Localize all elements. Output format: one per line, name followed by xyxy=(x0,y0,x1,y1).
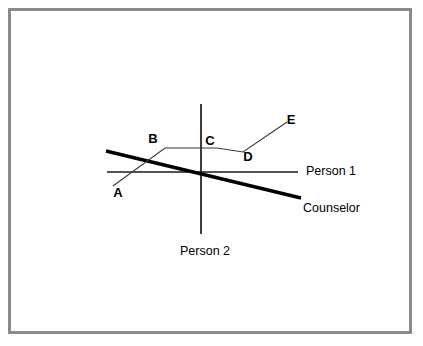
axis-label-person-2: Person 2 xyxy=(180,244,230,258)
point-label-a: A xyxy=(113,185,123,200)
axis-label-person-1: Person 1 xyxy=(306,164,356,178)
relationship-diagram: A B C D E Person 1 Counselor Person 2 xyxy=(0,0,423,346)
point-label-c: C xyxy=(205,133,215,148)
point-label-b: B xyxy=(148,131,157,146)
point-label-e: E xyxy=(287,112,296,127)
point-label-d: D xyxy=(243,149,252,164)
diagram-canvas: A B C D E Person 1 Counselor Person 2 xyxy=(0,0,423,346)
canvas-background xyxy=(0,0,423,346)
line-label-counselor: Counselor xyxy=(303,201,360,215)
